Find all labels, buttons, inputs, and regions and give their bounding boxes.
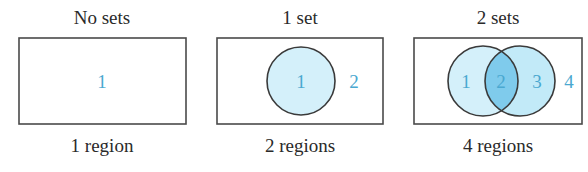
panel-caption: 2 regions — [265, 135, 335, 156]
panel-title: 1 set — [282, 7, 318, 28]
region-label-1: 1 — [97, 71, 107, 92]
panel-no-sets: No sets 1 1 region — [19, 7, 186, 156]
panel-title: 2 sets — [477, 7, 520, 28]
panel-two-sets: 2 sets 1 2 3 4 4 regions — [414, 7, 582, 156]
panel-caption: 4 regions — [463, 135, 533, 156]
region-label-2: 2 — [496, 71, 506, 92]
region-label-1: 1 — [461, 71, 471, 92]
region-label-3: 3 — [532, 71, 542, 92]
panel-one-set: 1 set 1 2 2 regions — [217, 7, 383, 156]
venn-regions-diagram: No sets 1 1 region 1 set 1 2 2 regions 2… — [0, 0, 588, 172]
region-label-1: 1 — [296, 71, 306, 92]
region-label-4: 4 — [564, 71, 574, 92]
panel-caption: 1 region — [71, 135, 134, 156]
region-label-2: 2 — [349, 71, 359, 92]
panel-title: No sets — [74, 7, 130, 28]
